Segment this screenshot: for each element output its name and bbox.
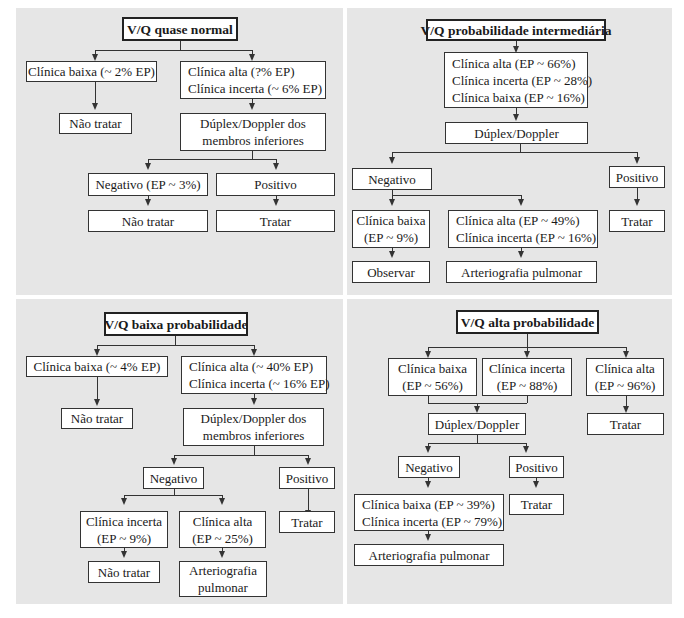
- box-doppler: Dúplex/Doppler: [428, 413, 526, 435]
- box-high-clinical: Clínica alta (~ 40% EP)Clínica incerta (…: [181, 356, 327, 394]
- arrow-icon: [474, 406, 480, 413]
- box-no-treat: Não tratar: [59, 113, 132, 134]
- box-negative: Negativo: [143, 467, 204, 489]
- connector: [392, 152, 637, 153]
- box-treat-positive: Tratar: [216, 210, 335, 232]
- connector: [477, 435, 478, 443]
- arrow-icon: [425, 446, 431, 453]
- box-treat: Tratar: [279, 511, 335, 533]
- box-high-clinical: Clínica alta(EP ~ 96%): [586, 358, 664, 396]
- arrow-icon: [171, 458, 177, 465]
- arrow-icon: [249, 103, 255, 110]
- box-neg-high: Clínica alta (EP ~ 49%)Clínica incerta (…: [448, 210, 598, 248]
- arrow-icon: [249, 54, 255, 61]
- arrow-icon: [92, 54, 98, 61]
- box-positive: Positivo: [609, 166, 665, 188]
- box-low-clinical: Clínica baixa (~ 4% EP): [26, 356, 168, 377]
- arrow-icon: [425, 351, 431, 358]
- arrow-icon: [219, 498, 225, 505]
- arrow-icon: [219, 551, 225, 558]
- connector: [97, 377, 98, 400]
- connector: [308, 489, 309, 511]
- connector: [95, 50, 252, 51]
- box-treat-high: Tratar: [587, 413, 664, 435]
- box-doppler: Dúplex/Doppler: [445, 122, 588, 144]
- box-treat-positive: Tratar: [509, 494, 564, 515]
- box-pulmonary-arteriography: Arteriografia pulmonar: [354, 544, 504, 566]
- box-treat: Tratar: [609, 210, 665, 232]
- arrow-icon: [524, 351, 530, 358]
- box-high-clinical: Clínica alta (?% EP)Clínica incerta (~ 6…: [180, 61, 326, 99]
- connector: [428, 443, 526, 444]
- box-neg-high: Clínica alta(EP ~ 25%): [179, 511, 266, 548]
- connector: [97, 345, 254, 346]
- arrow-icon: [518, 251, 524, 258]
- connector: [520, 144, 521, 152]
- arrow-icon: [389, 251, 395, 258]
- box-negative: Negativo (EP ~ 3%): [88, 173, 208, 196]
- connector: [175, 336, 176, 345]
- box-low-clinical: Clínica baixa (~ 2% EP): [26, 61, 157, 82]
- arrow-icon: [145, 163, 151, 170]
- connector: [428, 396, 429, 403]
- arrow-icon: [94, 349, 100, 356]
- box-clinical: Clínica alta (EP ~ 66%)Clínica incerta (…: [444, 52, 588, 108]
- box-pulmonary-arteriography: Arteriografiapulmonar: [179, 561, 267, 597]
- arrow-icon: [305, 458, 311, 465]
- box-positive: Positivo: [509, 456, 564, 478]
- box-doppler: Dúplex/Doppler dosmembros inferiores: [183, 408, 324, 446]
- connector: [392, 195, 521, 196]
- arrow-icon: [389, 199, 395, 206]
- box-neg-uncertain: Clínica incerta(EP ~ 9%): [80, 511, 168, 548]
- arrow-icon: [425, 534, 431, 541]
- arrow-icon: [94, 399, 100, 406]
- box-positive: Positivo: [279, 467, 335, 489]
- arrow-icon: [623, 406, 629, 413]
- arrow-icon: [145, 199, 151, 206]
- arrow-icon: [273, 199, 279, 206]
- box-neg-low: Clínica baixa(EP ~ 9%): [352, 210, 430, 248]
- arrow-icon: [251, 349, 257, 356]
- box-no-treat-negative: Não tratar: [88, 210, 208, 232]
- connector: [174, 455, 308, 456]
- title-vq-high: V/Q alta probabilidade: [456, 310, 599, 334]
- arrow-icon: [273, 163, 279, 170]
- title-vq-low: V/Q baixa probabilidade: [104, 312, 248, 336]
- arrow-icon: [533, 481, 539, 488]
- box-uncertain-clinical: Clínica incerta(EP ~ 88%): [482, 358, 572, 396]
- box-doppler: Dúplex/Doppler dosmembros inferiores: [180, 113, 326, 151]
- title-vq-normal: V/Q quase normal: [122, 17, 238, 41]
- arrow-icon: [389, 157, 395, 164]
- box-negative: Negativo: [398, 456, 460, 478]
- connector: [254, 446, 255, 455]
- connector: [252, 151, 253, 159]
- box-pulmonary-arteriography: Arteriografia pulmonar: [446, 261, 597, 283]
- connector: [95, 82, 96, 104]
- arrow-icon: [121, 551, 127, 558]
- box-positive: Positivo: [216, 173, 335, 196]
- title-vq-intermediate: V/Q probabilidade intermediária: [426, 19, 606, 41]
- box-negative: Negativo: [352, 168, 432, 190]
- box-no-treat: Não tratar: [61, 408, 133, 429]
- box-neg-result: Clínica baixa (EP ~ 39%)Clínica incerta …: [354, 494, 504, 531]
- arrow-icon: [634, 199, 640, 206]
- box-observe: Observar: [352, 261, 430, 283]
- arrow-icon: [518, 199, 524, 206]
- connector: [527, 396, 528, 403]
- arrow-icon: [523, 446, 529, 453]
- arrow-icon: [251, 398, 257, 405]
- arrow-icon: [121, 498, 127, 505]
- connector: [180, 41, 181, 50]
- arrow-icon: [92, 103, 98, 110]
- connector: [124, 495, 222, 496]
- arrow-icon: [623, 351, 629, 358]
- box-low-clinical: Clínica baixa(EP ~ 56%): [388, 358, 477, 396]
- connector: [527, 334, 528, 347]
- connector: [148, 159, 276, 160]
- box-no-treat-negative: Não tratar: [88, 561, 160, 583]
- arrow-icon: [425, 481, 431, 488]
- arrow-icon: [634, 157, 640, 164]
- arrow-icon: [513, 114, 519, 121]
